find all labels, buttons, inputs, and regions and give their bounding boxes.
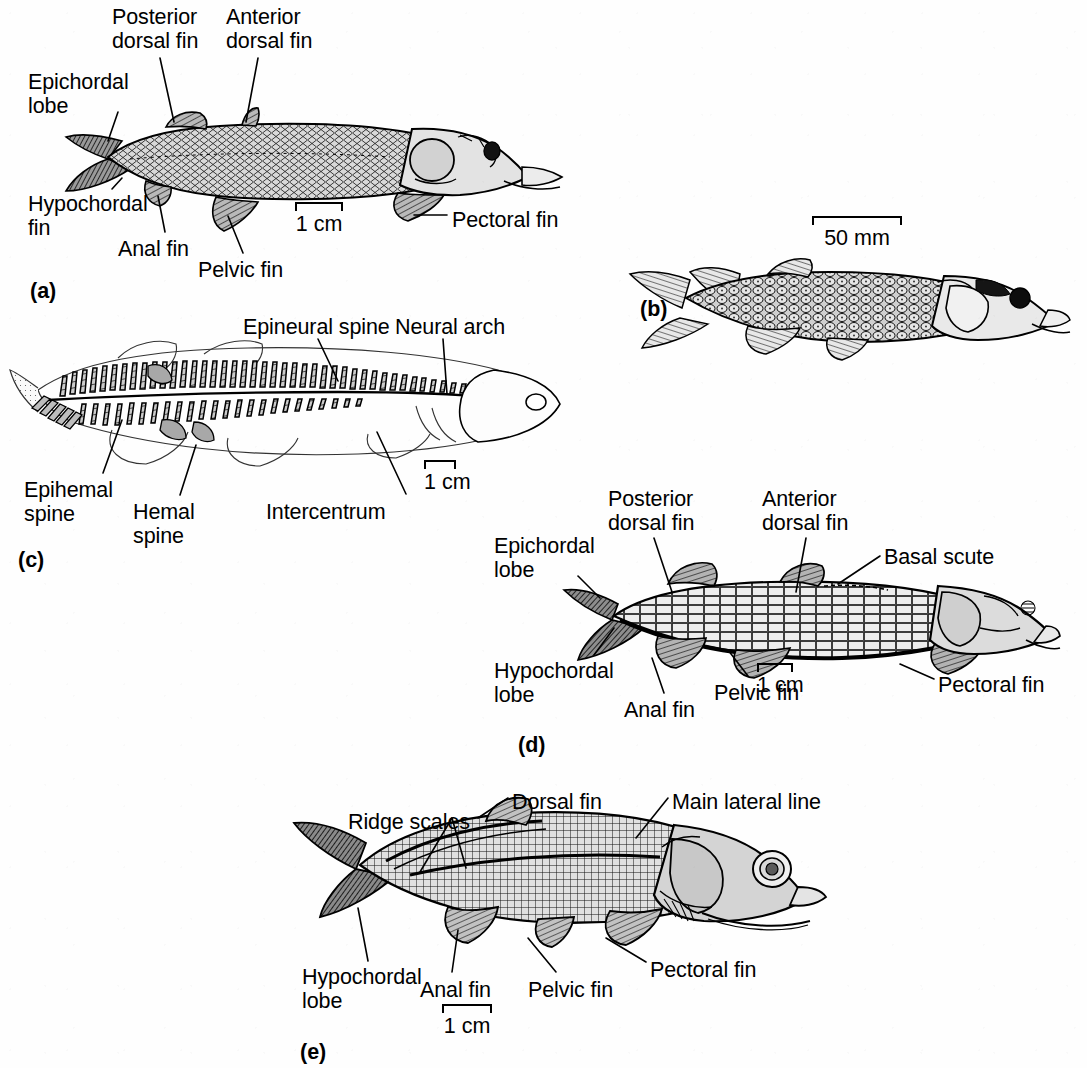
label-a-pelvic_fin: Pelvic fin — [198, 258, 283, 282]
label-e-pectoral_fin: Pectoral fin — [650, 958, 756, 982]
scale-bar-label-a: 1 cm — [295, 212, 343, 236]
scale-bar-rule-a — [295, 202, 343, 211]
figure-plate: Posterior dorsal finAnterior dorsal finE… — [0, 0, 1087, 1068]
label-a-pectoral_fin: Pectoral fin — [452, 208, 558, 232]
label-a-posterior_dorsal_fin: Posterior dorsal fin — [112, 5, 198, 53]
label-d-basal_scute: Basal scute — [884, 545, 994, 569]
label-a-anterior_dorsal_fin: Anterior dorsal fin — [226, 5, 312, 53]
scale-bar-rule-b — [812, 216, 902, 225]
scale-bar-rule-c — [424, 460, 456, 469]
label-d-epichordal_lobe: Epichordal lobe — [494, 534, 595, 582]
panel-c-skeleton-illustration — [8, 338, 588, 468]
scale-bar-rule-d — [757, 663, 793, 672]
scale-bar-label-e: 1 cm — [442, 1014, 492, 1038]
label-a-anal_fin: Anal fin — [118, 237, 189, 261]
panel-id-c: (c) — [18, 548, 44, 573]
scale-bar-d: 1 cm — [757, 663, 793, 697]
label-d-hypochordal_lobe: Hypochordal lobe — [494, 659, 614, 707]
scale-bar-c: 1 cm — [424, 460, 456, 494]
label-e-dorsal_fin: Dorsal fin — [512, 790, 602, 814]
label-e-ridge_scales: Ridge scales — [348, 810, 470, 834]
label-d-anterior_dorsal_fin: Anterior dorsal fin — [762, 487, 848, 535]
panel-b-fish-illustration — [620, 250, 1070, 360]
scale-bar-label-b: 50 mm — [812, 226, 902, 250]
scale-bar-label-c: 1 cm — [424, 470, 456, 494]
label-a-hypochordal_fin: Hypochordal fin — [28, 192, 148, 240]
label-e-pelvic_fin: Pelvic fin — [528, 978, 613, 1002]
scale-bar-label-d: 1 cm — [757, 673, 793, 697]
label-d-anal_fin: Anal fin — [624, 698, 695, 722]
label-a-epichordal_lobe: Epichordal lobe — [28, 70, 129, 118]
label-c-epineural_spine: Epineural spine — [243, 315, 390, 339]
label-d-posterior_dorsal_fin: Posterior dorsal fin — [608, 487, 694, 535]
scale-bar-b: 50 mm — [812, 216, 902, 250]
scale-bar-rule-e — [442, 1004, 492, 1013]
label-c-hemal_spine: Hemal spine — [133, 500, 195, 548]
label-d-pectoral_fin: Pectoral fin — [938, 673, 1044, 697]
label-c-epihemal_spine: Epihemal spine — [24, 478, 113, 526]
panel-id-b: (b) — [640, 297, 667, 322]
panel-d-fish-illustration — [560, 560, 1060, 690]
label-c-intercentrum: Intercentrum — [266, 500, 386, 524]
panel-id-d: (d) — [518, 733, 545, 758]
panel-id-e: (e) — [300, 1040, 326, 1065]
label-e-hypochordal_lobe: Hypochordal lobe — [302, 965, 422, 1013]
panel-id-a: (a) — [30, 279, 56, 304]
label-e-main_lateral_line: Main lateral line — [672, 790, 821, 814]
label-e-anal_fin: Anal fin — [420, 978, 491, 1002]
scale-bar-a: 1 cm — [295, 202, 343, 236]
label-c-neural_arch: Neural arch — [395, 315, 505, 339]
scale-bar-e: 1 cm — [442, 1004, 492, 1038]
